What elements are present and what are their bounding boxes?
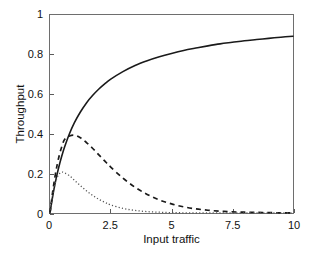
chart-figure: Throughput 00.20.40.60.81 02.557.510 Inp… (0, 0, 313, 258)
y-tick-label: 1 (14, 9, 43, 20)
line-throughput-solid (50, 36, 293, 213)
line-throughput-dashed (50, 135, 293, 213)
y-tick-mark (50, 214, 54, 215)
x-tick-label: 10 (288, 220, 300, 231)
y-tick-label: 0.6 (14, 89, 43, 100)
y-axis-title: Throughput (14, 14, 28, 214)
plot-area (49, 14, 294, 214)
x-tick-label: 7.5 (225, 220, 240, 231)
x-tick-label: 5 (168, 220, 174, 231)
x-axis-title: Input traffic (49, 233, 294, 245)
y-tick-label: 0 (14, 209, 43, 220)
curves-svg (50, 15, 293, 213)
line-throughput-dotted (50, 172, 293, 213)
x-tick-label: 2.5 (103, 220, 118, 231)
x-tick-mark (294, 209, 295, 213)
y-tick-label: 0.8 (14, 49, 43, 60)
y-tick-label: 0.4 (14, 129, 43, 140)
y-tick-label: 0.2 (14, 169, 43, 180)
x-tick-label: 0 (46, 220, 52, 231)
